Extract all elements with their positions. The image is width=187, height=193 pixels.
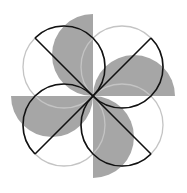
diagram-svg [0, 0, 187, 193]
pinwheel-diagram [0, 0, 187, 193]
